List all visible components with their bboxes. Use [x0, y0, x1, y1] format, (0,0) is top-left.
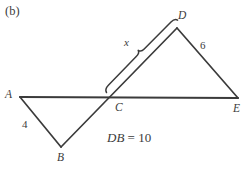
given-equation: DB = 10: [107, 131, 151, 144]
point-label-b: B: [57, 152, 64, 164]
figure-drawing: [0, 0, 243, 181]
point-label-c: C: [115, 102, 123, 114]
point-label-a: A: [5, 89, 12, 101]
geometry-figure: (b) A B C D E 4 6 x DB = 10: [0, 0, 243, 181]
length-label-cd: x: [124, 37, 129, 48]
segment-de: [177, 28, 238, 98]
given-equation-variable: DB: [107, 130, 124, 145]
length-label-ab: 4: [22, 119, 28, 130]
panel-label: (b): [5, 5, 20, 18]
brace-cd: [106, 19, 178, 92]
point-label-d: D: [178, 10, 186, 22]
given-equation-value: = 10: [128, 130, 152, 145]
segment-ae: [20, 97, 238, 98]
point-label-e: E: [233, 103, 240, 115]
length-label-de: 6: [200, 40, 206, 51]
